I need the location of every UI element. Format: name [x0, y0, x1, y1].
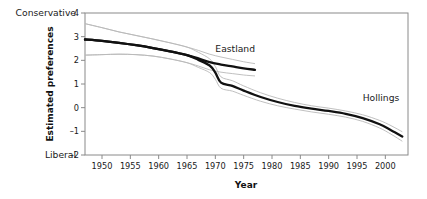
senator-preferences-line-chart: 1950195519601965197019751980198519901995…: [0, 0, 427, 199]
x-tick-label: 1995: [347, 161, 368, 171]
y-tick-label: 0: [74, 103, 79, 113]
x-tick-label: 1965: [177, 161, 198, 171]
x-axis-title: Year: [234, 180, 258, 190]
series-label-hollings: Hollings: [363, 92, 400, 103]
chart-figure: 1950195519601965197019751980198519901995…: [0, 0, 427, 199]
y-tick-label: 2: [74, 55, 79, 65]
y-axis-high-anchor-label: Conservative: [16, 7, 77, 18]
x-tick-label: 1950: [92, 161, 113, 171]
y-tick-label: 1: [74, 79, 79, 89]
x-tick-label: 1990: [318, 161, 339, 171]
y-tick-label: –1: [70, 126, 79, 136]
x-tick-label: 1985: [290, 161, 311, 171]
series-label-eastland: Eastland: [215, 43, 255, 54]
x-tick-label: 1980: [262, 161, 283, 171]
x-tick-label: 1960: [148, 161, 169, 171]
y-axis-low-anchor-label: Liberal: [45, 149, 76, 160]
x-axis-tick-labels: 1950195519601965197019751980198519901995…: [92, 161, 396, 171]
x-tick-label: 1970: [205, 161, 226, 171]
x-tick-label: 2000: [375, 161, 396, 171]
y-tick-label: 3: [74, 32, 79, 42]
x-tick-label: 1975: [233, 161, 254, 171]
y-axis-title: Estimated preferences: [45, 26, 55, 141]
x-tick-label: 1955: [120, 161, 141, 171]
